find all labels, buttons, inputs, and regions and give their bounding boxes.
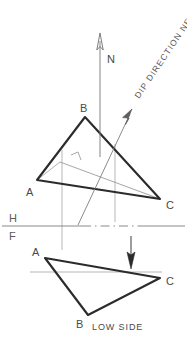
low-side-label: LOW SIDE	[92, 322, 143, 332]
right-angle-mark-icon	[71, 152, 81, 160]
top-view-label-b: B	[80, 102, 88, 114]
dip-direction-label: DIP DIRECTION NE	[132, 16, 187, 100]
down-arrow-icon	[127, 236, 135, 269]
front-view-group: A B C	[30, 246, 174, 330]
descriptive-geometry-figure: A B C N DIP DIRECTION NE H F	[0, 0, 187, 351]
top-view-triangle-abc	[37, 117, 160, 199]
front-view-label-b: B	[76, 318, 84, 330]
strike-line	[60, 162, 160, 199]
north-arrow-icon	[97, 33, 103, 157]
top-view-label-c: C	[166, 199, 174, 211]
frontal-plane-label: F	[9, 230, 16, 242]
horizontal-plane-label: H	[9, 212, 17, 224]
front-view-label-a: A	[32, 246, 40, 258]
top-view-label-a: A	[26, 186, 34, 198]
front-view-label-c: C	[166, 275, 174, 287]
north-label: N	[107, 53, 115, 65]
technical-drawing-canvas: A B C N DIP DIRECTION NE H F	[0, 0, 187, 351]
front-view-triangle-abc	[45, 258, 160, 315]
dip-direction-arrow-icon	[78, 109, 132, 225]
